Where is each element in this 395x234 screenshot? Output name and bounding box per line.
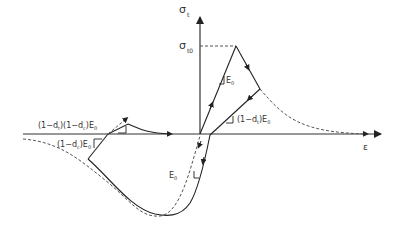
- tension-unload-slope-label: (1−dt)E0: [237, 115, 270, 125]
- tension-reloading-curve: [108, 124, 170, 134]
- stress-strain-diagram: σt σt0 ε E0 (1−dt)E0 (1−dt)(1−dc)E0 (1−d…: [0, 0, 395, 234]
- compression-slope-label: E0: [169, 171, 177, 181]
- compression-unload-slope-label: (1−dc)E0: [57, 140, 91, 150]
- peak-stress-label: σt0: [179, 39, 193, 54]
- reload-slope-label: (1−dt)(1−dc)E0: [38, 121, 97, 131]
- stress-axis-label: σt: [179, 3, 190, 18]
- tension-slope-label: E0: [226, 76, 234, 86]
- tension-unloading-line: [210, 89, 260, 135]
- tension-loading-line: [200, 46, 236, 134]
- compression-slope-triangle: [194, 171, 199, 178]
- compression-dashed-arrow-icon: [199, 141, 201, 146]
- strain-axis-label: ε: [363, 142, 368, 152]
- compression-loading-curve: [88, 135, 210, 215]
- tension-envelope-dashed: [260, 89, 366, 134]
